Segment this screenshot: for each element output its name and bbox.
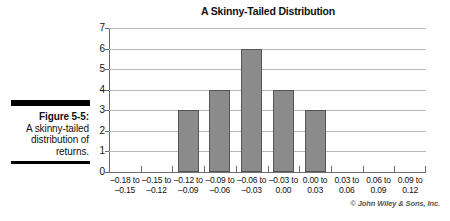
gridline-y-4 [109, 90, 426, 91]
y-tick-label-4: 4 [89, 84, 105, 95]
histogram-chart: A Skinny-Tailed Distribution 01234567 –0… [0, 0, 450, 221]
y-tick-label-3: 3 [89, 104, 105, 115]
chart-title: A Skinny-Tailed Distribution [109, 5, 427, 17]
bar--0-03-to-0-00 [273, 90, 294, 172]
bar-0-00-to-0-03 [305, 110, 326, 172]
y-tick-label-5: 5 [89, 63, 105, 74]
gridline-y-2 [109, 131, 426, 132]
gridline-y-6 [109, 49, 426, 50]
y-tick-label-6: 6 [89, 43, 105, 54]
y-tick-label-2: 2 [89, 125, 105, 136]
bar--0-06-to-0-03 [241, 49, 262, 172]
gridline-y-1 [109, 151, 426, 152]
copyright-credit: © John Wiley & Sons, Inc. [350, 199, 440, 208]
plot-area [109, 28, 426, 172]
gridline-y-3 [109, 110, 426, 111]
gridline-y-5 [109, 69, 426, 70]
y-tick-label-7: 7 [89, 22, 105, 33]
y-tick-label-1: 1 [89, 145, 105, 156]
bar--0-12-to-0-09 [178, 110, 199, 172]
gridline-y-0 [109, 172, 426, 173]
gridline-y-7 [109, 28, 426, 29]
bar--0-09-to-0-06 [209, 90, 230, 172]
x-tick-label-0-09-to-0-12: 0.09 to0.12 [388, 175, 432, 195]
